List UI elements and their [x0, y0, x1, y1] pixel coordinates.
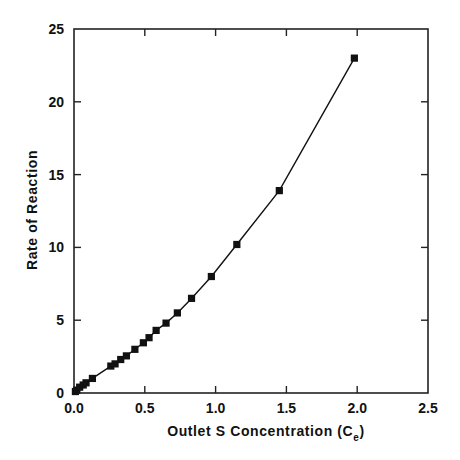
x-tick-label: 0.5 [135, 400, 155, 416]
x-axis-label-text: Outlet S Concentration (C [167, 423, 353, 439]
data-point-marker [89, 375, 96, 382]
data-point-marker [153, 327, 160, 334]
plot-frame [74, 29, 428, 393]
y-tick-label: 0 [56, 385, 64, 401]
x-tick-label: 2.0 [347, 400, 367, 416]
y-tick-label: 25 [48, 21, 64, 37]
y-axis-ticks: 0510152025 [48, 21, 428, 401]
x-tick-label: 1.0 [206, 400, 226, 416]
x-tick-label: 1.5 [277, 400, 297, 416]
x-tick-label: 2.5 [418, 400, 438, 416]
data-point-marker [123, 352, 130, 359]
data-point-marker [162, 320, 169, 327]
data-point-marker [351, 55, 358, 62]
plot-area-border [74, 29, 428, 393]
y-tick-label: 15 [48, 167, 64, 183]
x-axis-label: Outlet S Concentration (Ce) [167, 423, 365, 443]
series-line [75, 58, 354, 391]
x-tick-label: 0.0 [64, 400, 84, 416]
data-point-marker [174, 309, 181, 316]
data-point-marker [145, 334, 152, 341]
y-tick-label: 5 [56, 312, 64, 328]
data-point-marker [188, 295, 195, 302]
data-series [72, 55, 358, 396]
data-point-marker [131, 346, 138, 353]
y-tick-label: 20 [48, 94, 64, 110]
data-point-marker [82, 379, 89, 386]
data-point-marker [276, 187, 283, 194]
x-axis-label-close: ) [360, 423, 365, 439]
chart: 0.00.51.01.52.02.5 0510152025 Outlet S C… [0, 0, 460, 460]
data-point-marker [233, 241, 240, 248]
y-axis-label: Rate of Reaction [24, 150, 40, 270]
data-point-marker [208, 273, 215, 280]
y-tick-label: 10 [48, 239, 64, 255]
